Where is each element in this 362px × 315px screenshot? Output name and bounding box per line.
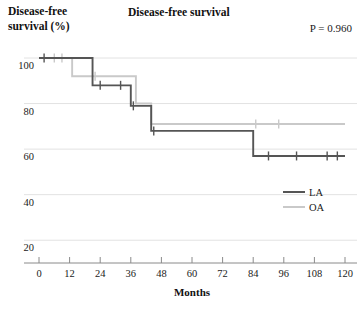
y-tick-label-60: 60 xyxy=(24,151,35,162)
x-tick-label-60: 60 xyxy=(187,268,198,279)
x-tick-label-36: 36 xyxy=(126,268,137,279)
survival-curve-OA xyxy=(39,58,345,124)
x-tick-label-108: 108 xyxy=(307,268,323,279)
chart-container: Disease-free survival (%) Disease-free s… xyxy=(0,0,362,315)
x-tick-label-12: 12 xyxy=(64,268,75,279)
x-axis-title: Months xyxy=(174,286,211,298)
y-tick-label-100: 100 xyxy=(18,60,34,71)
x-tick-label-72: 72 xyxy=(217,268,228,279)
x-tick-label-84: 84 xyxy=(248,268,259,279)
x-tick-label-120: 120 xyxy=(337,268,353,279)
series-group xyxy=(39,54,345,161)
y-tick-label-40: 40 xyxy=(24,197,35,208)
x-tick-label-24: 24 xyxy=(95,268,106,279)
legend-label-LA: LA xyxy=(309,187,323,198)
survival-curve-LA xyxy=(39,58,345,156)
y-tick-label-80: 80 xyxy=(24,106,35,117)
x-axis: 01224364860728496108120Months xyxy=(24,257,357,298)
kaplan-meier-plot: 10080604020 01224364860728496108120Month… xyxy=(0,0,362,315)
legend-label-OA: OA xyxy=(309,202,325,213)
x-tick-label-0: 0 xyxy=(36,268,41,279)
legend: LAOA xyxy=(283,187,325,213)
y-axis-ticks: 10080604020 xyxy=(18,60,34,253)
y-tick-label-20: 20 xyxy=(24,242,35,253)
x-tick-label-96: 96 xyxy=(279,268,290,279)
gridlines xyxy=(24,58,357,240)
x-tick-label-48: 48 xyxy=(156,268,167,279)
